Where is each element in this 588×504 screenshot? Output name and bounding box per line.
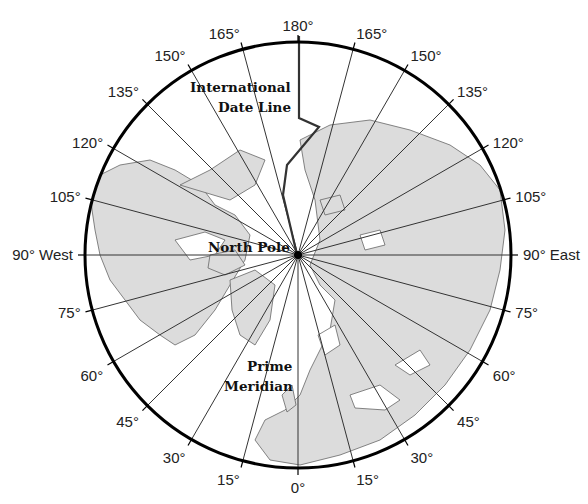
longitude-label: 45° (457, 413, 480, 430)
prime-meridian-label-2: Meridian (224, 378, 293, 394)
longitude-label: 165° (356, 25, 387, 42)
tick--120 (107, 145, 113, 149)
longitude-label: 45° (116, 413, 139, 430)
longitude-label: 120° (72, 134, 103, 151)
longitude-label: 135° (108, 83, 139, 100)
longitude-label: 0° (291, 479, 305, 496)
date-line-label-1: International (190, 79, 291, 95)
longitude-label: 60° (493, 367, 516, 384)
tick--30 (188, 439, 192, 445)
longitude-label: 60° (80, 367, 103, 384)
longitude-label: 90° West (12, 246, 74, 263)
tick--45 (142, 406, 147, 411)
prime-meridian-label-1: Prime (247, 358, 292, 374)
longitude-label: 90° East (523, 246, 581, 263)
map-disc (85, 36, 511, 468)
tick-60 (482, 362, 488, 366)
longitude-label: 75° (58, 304, 81, 321)
tick-135 (449, 99, 454, 104)
longitude-label: 135° (457, 83, 488, 100)
longitude-label: 165° (209, 25, 240, 42)
date-line-label-2: Date Line (218, 99, 291, 115)
longitude-label: 30° (163, 449, 186, 466)
longitude-label: 15° (356, 471, 379, 488)
polar-map: 0°15°30°45°60°75°90° East105°120°135°150… (0, 0, 588, 504)
longitude-label: 105° (50, 188, 81, 205)
tick-150 (405, 64, 409, 70)
longitude-label: 15° (217, 471, 240, 488)
longitude-label: 180° (282, 17, 313, 34)
longitude-label: 120° (493, 134, 524, 151)
north-pole-label: North Pole (208, 239, 290, 255)
longitude-label: 150° (411, 47, 442, 64)
tick-30 (405, 439, 409, 445)
tick-120 (482, 145, 488, 149)
north-pole-dot (294, 251, 302, 259)
tick--150 (188, 64, 192, 70)
longitude-label: 105° (515, 188, 546, 205)
longitude-label: 75° (515, 304, 538, 321)
tick--60 (107, 362, 113, 366)
tick-45 (449, 406, 454, 411)
longitude-label: 150° (154, 47, 185, 64)
longitude-label: 30° (411, 449, 434, 466)
tick--135 (142, 99, 147, 104)
